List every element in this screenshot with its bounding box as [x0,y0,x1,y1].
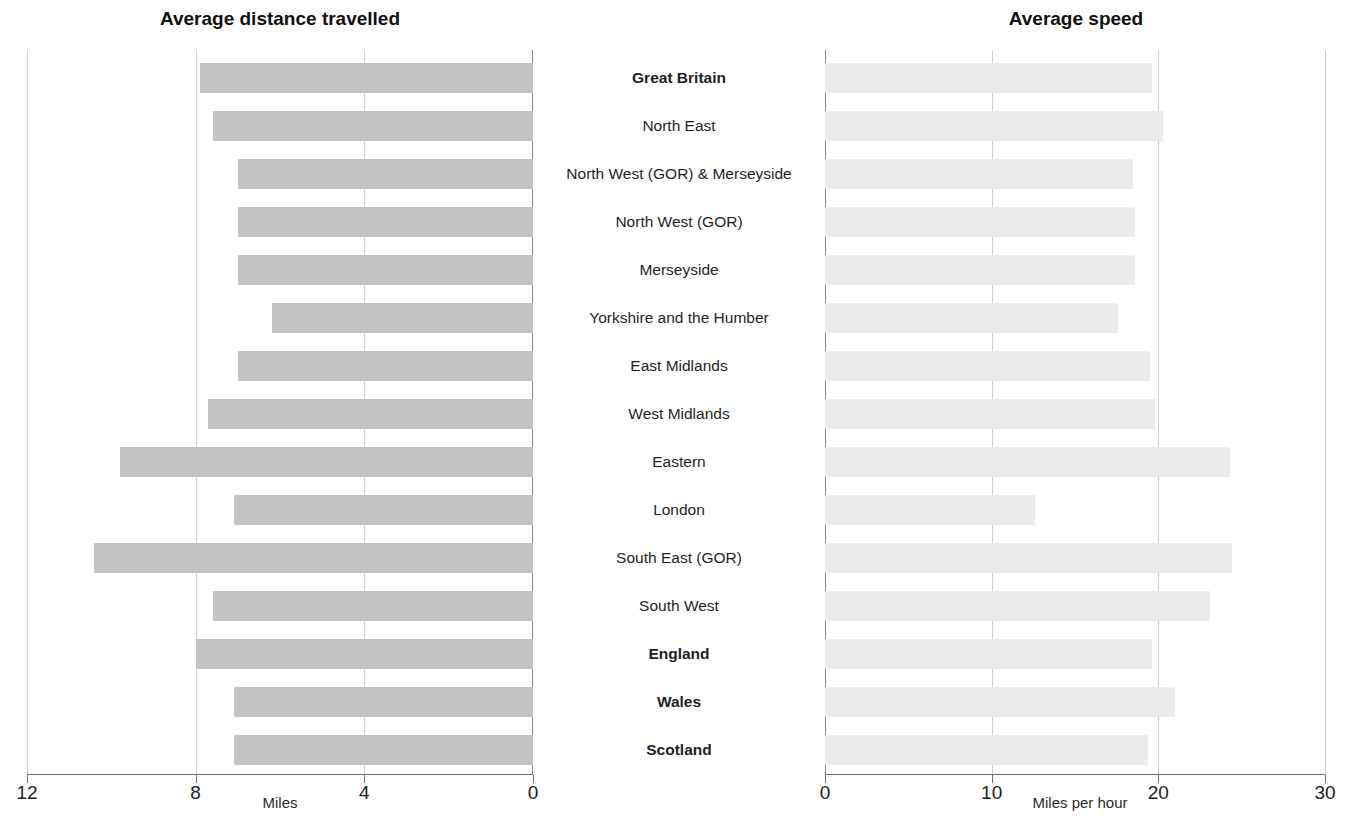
category-label: East Midlands [535,351,823,381]
bar-distance [238,351,533,381]
bar-speed [825,639,1152,669]
bar-speed [825,495,1035,525]
bar-speed [825,63,1152,93]
bar-distance [234,735,533,765]
category-label: Yorkshire and the Humber [535,303,823,333]
bar-speed [825,255,1135,285]
bar-speed [825,447,1230,477]
bar-speed [825,735,1148,765]
category-label: Eastern [535,447,823,477]
bar-speed [825,399,1155,429]
bar-speed [825,207,1135,237]
bar-distance [238,159,533,189]
category-label: Wales [535,687,823,717]
bar-speed [825,303,1118,333]
bar-speed [825,543,1232,573]
category-label: Scotland [535,735,823,765]
chart-distance-travelled [27,50,533,775]
gridline-speed-30 [1325,50,1326,775]
category-label: Merseyside [535,255,823,285]
axis-baseline-distance [27,774,533,775]
chart-average-speed [825,50,1325,775]
tick-label-distance-4: 4 [334,782,394,804]
category-label: North East [535,111,823,141]
gridline-distance-12 [27,50,28,775]
bar-speed [825,159,1133,189]
bar-distance [234,687,533,717]
tick-label-speed-30: 30 [1295,782,1352,804]
tick-label-distance-0: 0 [503,782,563,804]
axis-baseline-speed [825,774,1325,775]
category-label: South West [535,591,823,621]
bar-distance [120,447,533,477]
bar-speed [825,351,1150,381]
tick-label-speed-0: 0 [795,782,855,804]
category-label: South East (GOR) [535,543,823,573]
category-label: Great Britain [535,63,823,93]
bar-distance [234,495,533,525]
bar-distance [200,63,533,93]
category-label-column: Great BritainNorth EastNorth West (GOR) … [535,50,823,775]
chart-title-speed: Average speed [820,8,1332,30]
bar-distance [272,303,533,333]
category-label: North West (GOR) & Merseyside [535,159,823,189]
chart-title-distance: Average distance travelled [0,8,560,30]
bar-distance [238,207,533,237]
bar-speed [825,687,1175,717]
tick-label-speed-20: 20 [1128,782,1188,804]
bar-speed [825,591,1210,621]
category-label: England [535,639,823,669]
category-label: London [535,495,823,525]
bar-distance [213,111,533,141]
category-label: North West (GOR) [535,207,823,237]
bar-distance [208,399,533,429]
bar-speed [825,111,1163,141]
tick-label-distance-8: 8 [166,782,226,804]
gridline-speed-20 [1158,50,1159,775]
category-label: West Midlands [535,399,823,429]
tick-label-speed-10: 10 [962,782,1022,804]
bar-distance [238,255,533,285]
bar-distance [213,591,533,621]
tick-label-distance-12: 12 [0,782,57,804]
bar-distance [94,543,533,573]
bar-distance [196,639,533,669]
